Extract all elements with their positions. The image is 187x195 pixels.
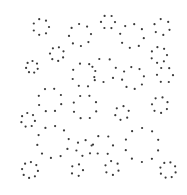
dot: [71, 165, 73, 167]
dot: [134, 88, 136, 90]
dot: [123, 70, 125, 72]
dot: [23, 174, 25, 176]
dot: [107, 135, 109, 137]
dot: [155, 31, 157, 33]
dot: [63, 129, 65, 131]
dot: [89, 152, 91, 154]
dot: [141, 161, 143, 163]
dot-ring: [121, 66, 145, 90]
dot: [111, 15, 113, 17]
dot: [38, 34, 40, 36]
dot: [78, 85, 80, 87]
dot: [95, 110, 97, 112]
dot: [68, 35, 70, 37]
dot: [33, 72, 35, 74]
dot: [34, 175, 36, 177]
dot: [87, 85, 89, 87]
dot: [38, 134, 40, 136]
dot: [80, 117, 82, 119]
dot: [77, 142, 79, 144]
dot: [62, 50, 64, 52]
dot: [143, 37, 145, 39]
dot: [165, 177, 167, 179]
dot: [160, 18, 162, 20]
dot: [66, 148, 68, 150]
dot: [36, 144, 38, 146]
dot: [60, 103, 62, 105]
dot: [90, 33, 92, 35]
dot-ring: [125, 127, 160, 163]
dot: [45, 20, 47, 22]
dot: [73, 102, 75, 104]
dot-ring: [153, 18, 170, 36]
dot: [115, 67, 117, 69]
dot: [38, 95, 40, 97]
dot: [131, 158, 133, 160]
dot: [53, 88, 55, 90]
dot: [88, 95, 90, 97]
dot: [57, 60, 59, 62]
dot: [104, 15, 106, 17]
dot-ring: [49, 46, 65, 62]
dot: [38, 18, 40, 20]
dot-ring: [21, 161, 39, 179]
dot: [24, 163, 26, 165]
dot-ring: [33, 18, 50, 36]
dot: [94, 70, 96, 72]
dot: [50, 157, 52, 159]
dot: [168, 29, 170, 31]
dot: [38, 104, 40, 106]
dot: [151, 130, 153, 132]
dot: [119, 33, 121, 35]
dot: [121, 79, 123, 81]
dot: [161, 96, 163, 98]
dot-ring: [68, 23, 92, 47]
dot: [87, 41, 89, 43]
dot: [88, 63, 90, 65]
dot: [78, 163, 80, 165]
dot: [33, 29, 35, 31]
dot-ring: [159, 161, 176, 178]
dot: [163, 60, 165, 62]
dot-ring: [119, 23, 145, 49]
dot: [125, 139, 127, 141]
dot: [117, 170, 119, 172]
dot: [21, 115, 23, 117]
dot: [81, 155, 83, 157]
dot: [151, 158, 153, 160]
dot: [25, 126, 27, 128]
dot: [45, 32, 47, 34]
dot: [85, 139, 87, 141]
dot: [72, 78, 74, 80]
dot: [44, 88, 46, 90]
dot: [114, 114, 116, 116]
dot: [86, 26, 88, 28]
dot: [72, 42, 74, 44]
dot: [28, 177, 30, 179]
dot: [102, 81, 104, 83]
dot: [73, 111, 75, 113]
dot: [156, 62, 158, 64]
dot: [62, 56, 64, 58]
dot: [163, 48, 165, 50]
dot: [30, 161, 32, 163]
dot-ring: [38, 88, 63, 113]
dot-ring: [25, 60, 39, 74]
dot: [155, 97, 157, 99]
dot: [92, 144, 94, 146]
dot: [79, 63, 81, 65]
dot: [114, 21, 116, 23]
dot: [159, 167, 161, 169]
dot-ring: [151, 96, 169, 114]
dot: [112, 174, 114, 176]
dot-ring: [92, 135, 114, 155]
dot: [79, 95, 81, 97]
dot: [71, 27, 73, 29]
dot: [112, 77, 114, 79]
dot: [105, 171, 107, 173]
dot: [58, 46, 60, 48]
dot: [168, 81, 170, 83]
dot: [141, 83, 143, 85]
dot: [162, 34, 164, 36]
dot: [78, 23, 80, 25]
